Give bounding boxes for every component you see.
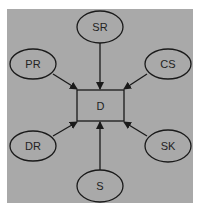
- diagram-canvas: D SR PR CS DR SK S: [0, 0, 201, 210]
- node-pr-label: PR: [25, 58, 40, 70]
- node-dr-label: DR: [25, 140, 41, 152]
- center-node-label: D: [97, 100, 105, 112]
- node-sr-label: SR: [92, 21, 107, 33]
- node-s-label: S: [96, 180, 103, 192]
- node-sk-label: SK: [161, 140, 176, 152]
- node-cs-label: CS: [160, 58, 175, 70]
